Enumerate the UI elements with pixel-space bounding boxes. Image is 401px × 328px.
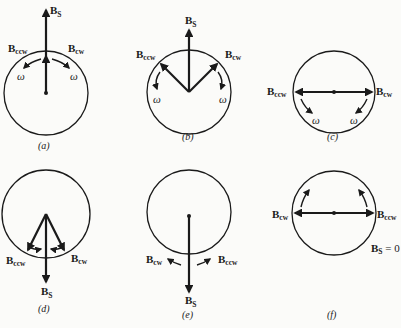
b-ccw-label: Bccw: [8, 42, 28, 56]
omega-left: ω: [153, 93, 161, 105]
bs-label: BS: [50, 4, 62, 19]
b-cw-vector: [189, 64, 217, 92]
rotation-arrow-cw: [52, 59, 69, 68]
b-cw-label: Bcw: [225, 48, 242, 62]
caption-e: (e): [182, 309, 194, 321]
bs-label: BS: [185, 294, 197, 309]
caption-c: (c): [327, 131, 339, 143]
b-ccw-label: Bccw: [267, 85, 287, 99]
panel-c: Bccw Bcw ω ω (c): [267, 51, 393, 143]
omega-right: ω: [350, 114, 358, 126]
b-cw-label: Bcw: [272, 208, 289, 222]
b-ccw-label: Bccw: [218, 253, 238, 267]
omega-left: ω: [17, 70, 25, 82]
b-ccw-label: Bccw: [6, 254, 26, 268]
b-cw-label: Bcw: [68, 42, 85, 56]
b-ccw-label: Bccw: [136, 48, 156, 62]
panel-a: BS Bccw Bcw ω ω (a): [4, 4, 88, 152]
rotation-arrow-ccw: [156, 72, 160, 89]
rotation-arrow-ccw: [359, 190, 367, 207]
rotation-arrow-cw: [51, 248, 61, 249]
panel-f: Bcw Bccw BS = 0 (f): [272, 171, 400, 321]
rotation-arrow-cw: [301, 190, 309, 207]
bs-label: BS: [185, 14, 197, 29]
rotation-arrow-ccw: [197, 259, 210, 265]
omega-right: ω: [219, 93, 227, 105]
rotation-arrow-cw: [356, 99, 367, 113]
b-cw-label: Bcw: [376, 85, 393, 99]
caption-b: (b): [182, 131, 194, 143]
panel-e: Bcw Bccw BS (e): [146, 170, 238, 321]
rotation-arrow-ccw: [31, 248, 41, 249]
b-ccw-label: Bccw: [377, 208, 397, 222]
b-ccw-vector: [161, 64, 189, 92]
caption-a: (a): [38, 140, 50, 152]
rotation-arrow-cw: [218, 72, 222, 89]
bs-label: BS: [41, 285, 53, 300]
caption-f: (f): [327, 309, 337, 321]
rotation-arrow-cw: [168, 259, 181, 265]
rotation-arrow-ccw: [24, 59, 41, 68]
rotating-field-diagram: BS Bccw Bcw ω ω (a) BS Bccw Bcw ω ω (b) …: [0, 0, 401, 328]
b-cw-label: Bcw: [71, 252, 88, 266]
caption-d: (d): [38, 303, 50, 315]
panel-d: Bccw Bcw BS (d): [2, 170, 90, 315]
omega-right: ω: [70, 70, 78, 82]
b-ccw-vector: [28, 214, 46, 250]
panel-b: BS Bccw Bcw ω ω (b): [136, 14, 242, 143]
bs-zero-label: BS = 0: [371, 242, 400, 256]
b-cw-vector: [46, 214, 64, 250]
omega-left: ω: [312, 114, 320, 126]
rotation-arrow-ccw: [301, 99, 312, 113]
b-cw-label: Bcw: [146, 253, 163, 267]
